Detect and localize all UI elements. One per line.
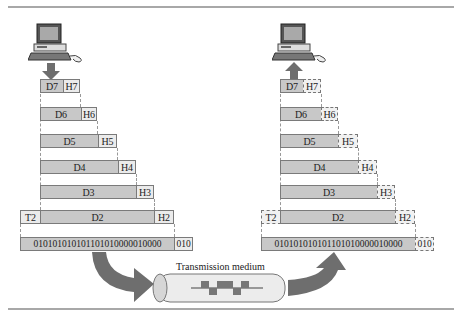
header-h3: H3	[136, 185, 154, 199]
sender-computer-icon	[28, 22, 86, 64]
bitstream: 010101010101101010000010000	[261, 237, 416, 251]
header-h5: H5	[98, 134, 117, 148]
data-d6: D6	[280, 107, 322, 121]
guide-line	[321, 94, 322, 107]
guide-line	[338, 121, 339, 134]
receiver-computer-icon	[272, 22, 330, 64]
data-d6: D6	[40, 107, 82, 121]
data-d4: D4	[280, 160, 359, 174]
guide-line	[358, 148, 359, 160]
data-d5: D5	[280, 134, 339, 148]
header-h7: H7	[303, 79, 321, 93]
transmission-medium-cable-icon	[151, 272, 289, 306]
data-d2: D2	[40, 210, 155, 224]
guide-line	[80, 94, 81, 107]
guide-line	[117, 148, 118, 160]
bottom-rule	[8, 308, 454, 310]
header-h4: H4	[118, 160, 136, 174]
up-arrow-icon	[285, 62, 303, 80]
trailer-t2: T2	[20, 210, 41, 224]
header-h6: H6	[81, 107, 97, 121]
guide-line	[136, 174, 137, 185]
data-d4: D4	[40, 160, 119, 174]
header-h5: H5	[338, 134, 358, 148]
guide-line	[415, 224, 416, 237]
down-arrow-icon	[42, 63, 60, 80]
guide-line	[377, 174, 378, 185]
layered-encapsulation-diagram: D7 H7 D6 H6 D5 H5 D4 H4 D3 H3 T2 D2 H2 0…	[0, 0, 458, 321]
data-d3: D3	[40, 185, 137, 199]
curved-arrow-down-icon	[86, 252, 158, 304]
header-h2: H2	[154, 210, 174, 224]
medium-label: Transmission medium	[176, 261, 265, 272]
bitstream-tail: 010	[174, 237, 193, 251]
header-h2: H2	[395, 210, 415, 224]
top-rule	[8, 6, 454, 8]
trailer-t2: T2	[261, 210, 281, 224]
guide-line	[261, 224, 262, 237]
guide-line	[395, 199, 396, 210]
bitstream-tail: 010	[415, 237, 434, 251]
data-d7: D7	[280, 79, 304, 93]
data-d3: D3	[280, 185, 378, 199]
guide-line	[174, 224, 175, 237]
guide-line	[20, 224, 21, 237]
guide-line	[97, 121, 98, 134]
guide-line	[154, 199, 155, 210]
header-h7: H7	[63, 79, 80, 93]
bitstream: 010101010101101010000010000	[20, 237, 175, 251]
header-h6: H6	[321, 107, 338, 121]
data-d5: D5	[40, 134, 99, 148]
data-d2: D2	[280, 210, 396, 224]
curved-arrow-up-icon	[286, 252, 348, 302]
header-h4: H4	[358, 160, 377, 174]
header-h3: H3	[377, 185, 395, 199]
data-d7: D7	[40, 79, 64, 93]
